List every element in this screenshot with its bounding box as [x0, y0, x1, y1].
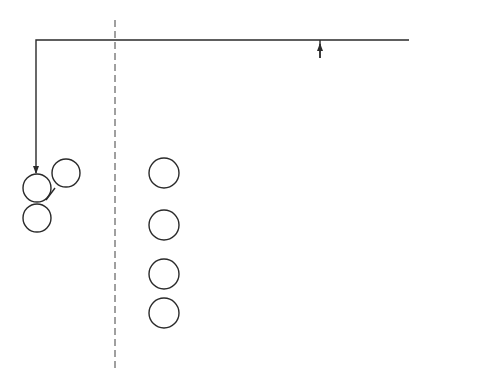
state-t5 — [149, 259, 179, 289]
state-t3 — [149, 158, 179, 188]
state-t2 — [52, 159, 80, 187]
flowchart-canvas — [0, 0, 477, 390]
edge-jammed-no-to-t1 — [36, 40, 409, 173]
edge-t1-to-t2 — [45, 142, 56, 162]
state-stopped — [149, 298, 179, 328]
state-t4 — [149, 210, 179, 240]
state-t1i — [23, 204, 51, 232]
